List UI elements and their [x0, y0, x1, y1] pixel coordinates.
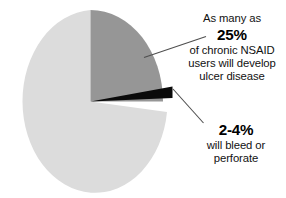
callout-ulcer-percent: 25%	[178, 25, 286, 44]
callout-bleed-perforate: 2-4% will bleed or perforate	[186, 120, 286, 165]
pie-slice-ulcer	[91, 10, 164, 102]
callout-bleed-line1: will bleed or	[186, 139, 286, 152]
callout-bleed-percent: 2-4%	[186, 120, 286, 139]
pie-chart-figure: As many as 25% of chronic NSAID users wi…	[0, 0, 286, 198]
callout-ulcer-line1: As many as	[178, 12, 286, 25]
leader-line-bleed	[173, 89, 204, 123]
callout-bleed-line2: perforate	[186, 152, 286, 165]
callout-ulcer-line4: ulcer disease	[178, 70, 286, 83]
callout-ulcer-line2: of chronic NSAID	[178, 44, 286, 57]
callout-ulcer-disease: As many as 25% of chronic NSAID users wi…	[178, 12, 286, 83]
callout-ulcer-line3: users will develop	[178, 57, 286, 70]
